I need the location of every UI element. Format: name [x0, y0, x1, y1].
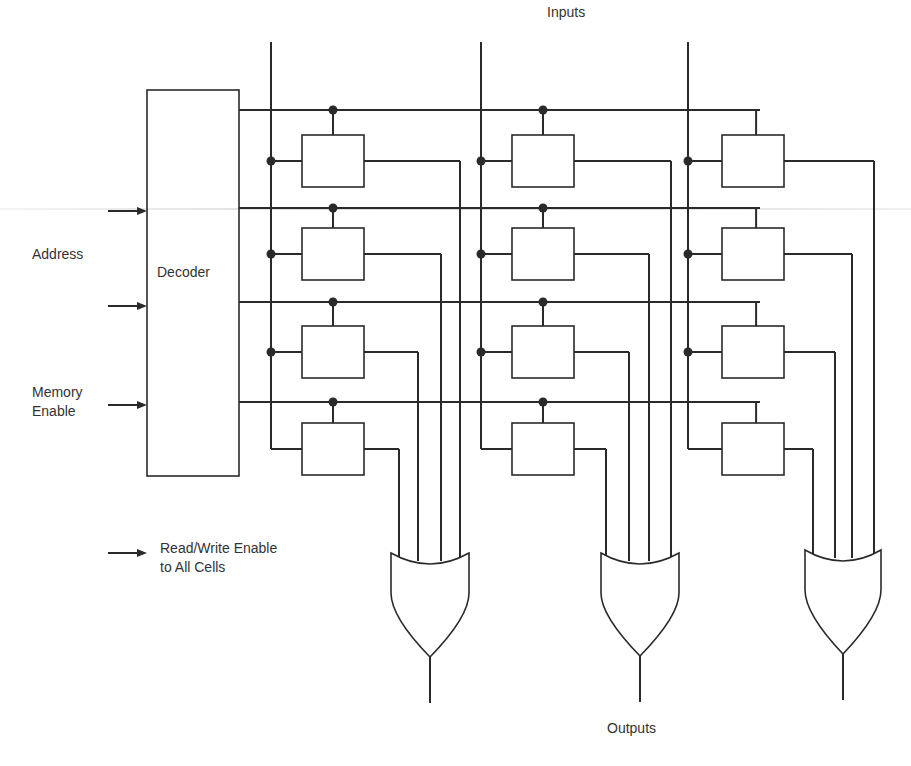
memory-cell	[722, 228, 784, 280]
decoder-label: Decoder	[157, 262, 210, 282]
memory-cell	[302, 326, 364, 378]
inputs-label: Inputs	[547, 2, 585, 22]
junction-dot	[539, 106, 548, 115]
junction-dot	[539, 204, 548, 213]
junction-dot	[684, 250, 693, 259]
memory-cell	[302, 135, 364, 187]
arrows	[108, 207, 147, 557]
outputs-label: Outputs	[607, 718, 656, 738]
junction-dot	[539, 398, 548, 407]
memory-cell	[512, 228, 574, 280]
memory-cell	[512, 135, 574, 187]
or-gates	[391, 550, 881, 657]
decoder-box	[147, 90, 239, 476]
junction-dot	[684, 348, 693, 357]
junction-dot	[267, 348, 276, 357]
or-gate	[601, 553, 679, 656]
arrowhead-icon	[137, 207, 147, 215]
junction-dot	[329, 398, 338, 407]
junction-dot	[684, 157, 693, 166]
rw-enable-label-line1: Read/Write Enable	[160, 538, 277, 558]
arrowhead-icon	[137, 401, 147, 409]
junction-dot	[477, 157, 486, 166]
junction-dot	[329, 106, 338, 115]
memory-enable-label-line2: Enable	[32, 401, 76, 421]
junction-dot	[477, 250, 486, 259]
or-gate	[391, 553, 469, 657]
junction-dot	[329, 204, 338, 213]
memory-cell	[722, 423, 784, 475]
rw-enable-label-line2: to All Cells	[160, 557, 225, 577]
junction-dot	[477, 348, 486, 357]
address-label: Address	[32, 244, 83, 264]
junction-dot	[267, 250, 276, 259]
memory-cell	[512, 326, 574, 378]
memory-enable-label-line1: Memory	[32, 382, 83, 402]
or-gate	[805, 550, 881, 654]
memory-array-diagram	[0, 0, 911, 766]
arrowhead-icon	[137, 302, 147, 310]
memory-cell	[302, 423, 364, 475]
memory-cell	[512, 423, 574, 475]
junction-dot	[329, 298, 338, 307]
memory-cell	[722, 135, 784, 187]
junction-dot	[539, 298, 548, 307]
arrowhead-icon	[137, 549, 147, 557]
junction-dot	[267, 157, 276, 166]
memory-cell	[302, 228, 364, 280]
memory-cell	[722, 326, 784, 378]
